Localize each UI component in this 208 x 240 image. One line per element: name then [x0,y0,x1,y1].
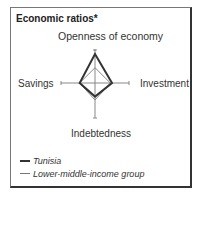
legend: Tunisia Lower-middle-income group [20,154,144,180]
radar-axes [61,49,129,118]
legend-label: Lower-middle-income group [33,169,144,179]
legend-item-lower-middle-income: Lower-middle-income group [20,167,144,180]
legend-item-tunisia: Tunisia [20,154,144,167]
legend-swatch-bold [20,160,30,162]
series-tunisia-polygon [80,54,112,97]
legend-label: Tunisia [33,156,61,166]
legend-swatch-thin [20,173,30,174]
